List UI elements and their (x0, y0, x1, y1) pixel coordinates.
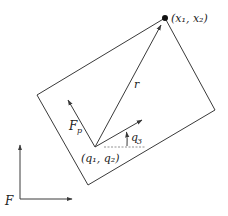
frame-f-label: F (4, 194, 14, 208)
body-rectangle (37, 18, 215, 185)
r-vector-arrow (95, 25, 161, 147)
point-x-dot (162, 15, 168, 21)
r-label: r (134, 78, 140, 91)
q3-subscript: 3 (137, 137, 142, 146)
fp-subscript: p (77, 126, 82, 135)
angle-q3-arc-icon (127, 132, 128, 146)
origin-q-label: (q₁, q₂) (81, 152, 119, 165)
point-x-label: (x₁, x₂) (171, 12, 208, 25)
kinematics-diagram: (x₁, x₂) r F p (q₁, q₂) q 3 F (0, 0, 228, 216)
